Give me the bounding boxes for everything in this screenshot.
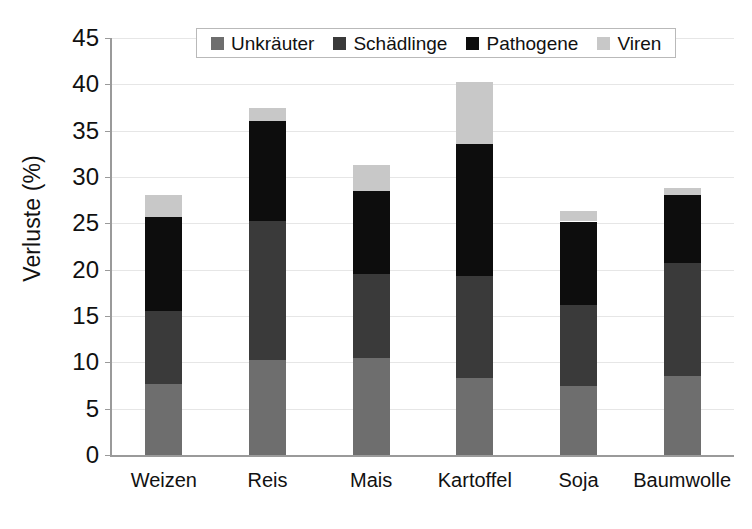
bar-segment-viren[interactable] — [353, 165, 390, 191]
bar-reis[interactable]: Reis — [249, 108, 286, 456]
bar-segment-viren[interactable] — [249, 108, 286, 122]
legend-label: Pathogene — [486, 34, 578, 53]
y-axis-tick — [105, 84, 112, 85]
legend-label: Unkräuter — [231, 34, 314, 53]
legend-item-schädlinge[interactable]: Schädlinge — [333, 34, 447, 53]
bar-weizen[interactable]: Weizen — [145, 195, 182, 455]
gridline — [112, 409, 734, 410]
legend-item-pathogene[interactable]: Pathogene — [466, 34, 578, 53]
y-axis-tick-label: 35 — [72, 117, 99, 145]
x-axis-tick-label: Soja — [558, 469, 598, 492]
bar-segment-schädlinge[interactable] — [249, 221, 286, 361]
bar-segment-pathogene[interactable] — [664, 195, 701, 264]
legend-swatch-icon — [333, 37, 346, 50]
bar-segment-unkräuter[interactable] — [145, 384, 182, 455]
bar-segment-pathogene[interactable] — [353, 191, 390, 274]
bar-soja[interactable]: Soja — [560, 211, 597, 455]
bar-segment-viren[interactable] — [456, 82, 493, 143]
gridline — [112, 177, 734, 178]
bar-segment-schädlinge[interactable] — [456, 276, 493, 378]
y-axis-tick — [105, 223, 112, 224]
legend-label: Viren — [617, 34, 661, 53]
legend-label: Schädlinge — [353, 34, 447, 53]
y-axis-tick-label: 40 — [72, 70, 99, 98]
bar-mais[interactable]: Mais — [353, 165, 390, 455]
legend-item-viren[interactable]: Viren — [597, 34, 661, 53]
bar-segment-unkräuter[interactable] — [353, 358, 390, 455]
bar-segment-viren[interactable] — [145, 195, 182, 217]
y-axis-tick — [105, 362, 112, 363]
legend-item-unkräuter[interactable]: Unkräuter — [211, 34, 314, 53]
gridline — [112, 223, 734, 224]
x-axis-tick-label: Kartoffel — [438, 469, 512, 492]
bar-baumwolle[interactable]: Baumwolle — [664, 188, 701, 455]
bar-segment-unkräuter[interactable] — [456, 378, 493, 455]
bar-segment-pathogene[interactable] — [560, 222, 597, 305]
y-axis-tick — [105, 177, 112, 178]
bar-segment-schädlinge[interactable] — [353, 274, 390, 357]
gridline — [112, 270, 734, 271]
plot-area: 051015202530354045 WeizenReisMaisKartoff… — [110, 38, 734, 457]
bar-kartoffel[interactable]: Kartoffel — [456, 82, 493, 455]
bar-segment-viren[interactable] — [560, 211, 597, 221]
gridline — [112, 84, 734, 85]
x-axis-tick-label: Weizen — [131, 469, 197, 492]
y-axis-tick-label: 25 — [72, 209, 99, 237]
bar-segment-unkräuter[interactable] — [560, 386, 597, 456]
bar-segment-unkräuter[interactable] — [249, 360, 286, 455]
bar-segment-schädlinge[interactable] — [664, 263, 701, 376]
bar-segment-pathogene[interactable] — [456, 144, 493, 277]
legend-swatch-icon — [211, 37, 224, 50]
y-axis-title: Verluste (%) — [19, 99, 46, 339]
x-axis-tick-label: Mais — [350, 469, 392, 492]
stacked-bar-chart: Verluste (%) 051015202530354045 WeizenRe… — [0, 0, 752, 529]
bar-segment-schädlinge[interactable] — [560, 305, 597, 386]
bar-segment-pathogene[interactable] — [145, 217, 182, 312]
chart-legend: UnkräuterSchädlingePathogeneViren — [196, 28, 676, 58]
x-axis-tick-label: Baumwolle — [633, 469, 731, 492]
legend-swatch-icon — [597, 37, 610, 50]
gridline — [112, 362, 734, 363]
y-axis-tick-label: 10 — [72, 348, 99, 376]
y-axis-tick-label: 30 — [72, 163, 99, 191]
gridline — [112, 131, 734, 132]
y-axis-tick-label: 20 — [72, 256, 99, 284]
y-axis-tick-label: 5 — [86, 395, 99, 423]
y-axis-tick — [105, 38, 112, 39]
y-axis-tick — [105, 316, 112, 317]
x-axis-tick-label: Reis — [247, 469, 287, 492]
y-axis-tick-label: 0 — [86, 441, 99, 469]
y-axis-tick — [105, 270, 112, 271]
gridline — [112, 316, 734, 317]
bar-segment-schädlinge[interactable] — [145, 311, 182, 383]
bar-segment-unkräuter[interactable] — [664, 376, 701, 455]
y-axis-tick — [105, 455, 112, 456]
legend-swatch-icon — [466, 37, 479, 50]
y-axis-tick-label: 15 — [72, 302, 99, 330]
bar-segment-viren[interactable] — [664, 188, 701, 194]
y-axis-tick — [105, 409, 112, 410]
y-axis-tick-label: 45 — [72, 24, 99, 52]
bar-segment-pathogene[interactable] — [249, 121, 286, 220]
y-axis-tick — [105, 131, 112, 132]
